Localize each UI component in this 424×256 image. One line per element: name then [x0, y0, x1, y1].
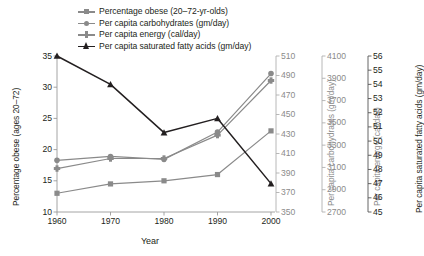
y-tick-energy-3300: 3300	[327, 141, 346, 150]
y-tick-energy-3100: 3100	[327, 163, 346, 172]
y-tick-sfa-49: 49	[373, 151, 383, 160]
y-tick-carbohydrates-350: 350	[281, 208, 295, 217]
y-tick-energy-3900: 3900	[327, 74, 346, 83]
y-tick-sfa-51: 51	[373, 122, 383, 131]
x-tick-1990: 1990	[202, 217, 234, 226]
y-tick-sfa-47: 47	[373, 179, 383, 188]
y-tick-obese-30: 30	[25, 83, 52, 92]
y-tick-energy-2900: 2900	[327, 185, 346, 194]
y-tick-sfa-56: 56	[373, 52, 383, 61]
y-tick-sfa-54: 54	[373, 80, 383, 89]
y-tick-sfa-55: 55	[373, 66, 383, 75]
y-tick-energy-2700: 2700	[327, 208, 346, 217]
x-tick-1960: 1960	[41, 217, 73, 226]
x-tick-2000: 2000	[255, 217, 287, 226]
y-tick-sfa-52: 52	[373, 108, 383, 117]
y-tick-obese-15: 15	[25, 176, 52, 185]
y-tick-energy-4100: 4100	[327, 52, 346, 61]
y-tick-energy-3500: 3500	[327, 118, 346, 127]
y-tick-energy-3700: 3700	[327, 96, 346, 105]
y-tick-sfa-50: 50	[373, 137, 383, 146]
y-tick-sfa-53: 53	[373, 94, 383, 103]
y-tick-carbohydrates-410: 410	[281, 149, 295, 158]
y-tick-sfa-48: 48	[373, 165, 383, 174]
y-tick-obese-20: 20	[25, 145, 52, 154]
y-tick-obese-35: 35	[25, 52, 52, 61]
x-tick-1980: 1980	[148, 217, 180, 226]
y-tick-sfa-46: 46	[373, 193, 383, 202]
y-tick-carbohydrates-390: 390	[281, 169, 295, 178]
x-tick-1970: 1970	[95, 217, 127, 226]
y-tick-carbohydrates-490: 490	[281, 71, 295, 80]
y-tick-carbohydrates-370: 370	[281, 188, 295, 197]
y-tick-sfa-45: 45	[373, 208, 383, 217]
y-tick-carbohydrates-430: 430	[281, 130, 295, 139]
y-tick-carbohydrates-510: 510	[281, 52, 295, 61]
y-tick-obese-25: 25	[25, 114, 52, 123]
y-tick-carbohydrates-470: 470	[281, 91, 295, 100]
y-tick-carbohydrates-450: 450	[281, 110, 295, 119]
